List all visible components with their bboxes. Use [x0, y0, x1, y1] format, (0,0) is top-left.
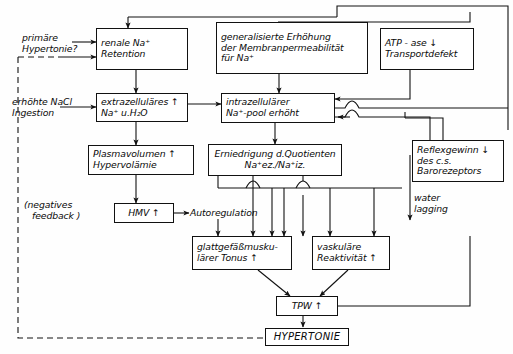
- flow-diagram: renale Na⁺ Retention generalisierte Erhö…: [0, 0, 513, 354]
- right-line-hop-b: [335, 110, 430, 140]
- node-generalisierte-erhoehung[interactable]: generalisierte Erhöhung der Membranperme…: [216, 22, 368, 74]
- label-autoregulation: Autoregulation: [190, 207, 258, 218]
- node-line: Na⁺ u.H₂O: [101, 108, 183, 119]
- right-line-hop-a: [335, 101, 508, 108]
- node-renale-na-retention[interactable]: renale Na⁺ Retention: [96, 28, 188, 70]
- arrow-glatt-tpw: [258, 270, 290, 296]
- label-line: primäre: [22, 32, 77, 43]
- node-glattgefaessmuskulaerer-tonus[interactable]: glattgefäßmusku- lärer Tonus ↑: [192, 236, 292, 270]
- label-line: lagging: [414, 203, 448, 214]
- node-erniedrigung-quotient[interactable]: Erniedrigung d.Quotienten Na⁺ez./Na⁺iz.: [208, 144, 342, 176]
- label-primaere-hypertonie: primäre Hypertonie?: [22, 32, 77, 54]
- node-hypertonie[interactable]: HYPERTONIE: [265, 328, 349, 346]
- label-line: water: [414, 192, 448, 203]
- wire-hop-2: [296, 181, 310, 188]
- node-line: TPW ↑: [292, 301, 323, 312]
- arrow-vask-tpw: [320, 270, 348, 296]
- label-water-lagging: water lagging: [414, 192, 448, 214]
- node-vaskulaere-reaktivitaet[interactable]: vaskuläre Reaktivität ↑: [312, 236, 390, 270]
- node-line: Barorezeptors: [417, 166, 499, 177]
- label-line: Autoregulation: [190, 207, 258, 218]
- node-reflexgewinn-barorezeptors[interactable]: Reflexgewinn ↓ des c.s. Barorezeptors: [412, 140, 504, 182]
- arrow-atpase-intra: [335, 70, 410, 99]
- node-line: Retention: [101, 49, 183, 60]
- label-line: (negatives: [24, 199, 80, 210]
- node-line: für Na⁺: [221, 53, 363, 64]
- node-line: lärer Tonus ↑: [197, 253, 287, 264]
- node-tpw[interactable]: TPW ↑: [276, 296, 338, 316]
- label-erhoehte-nacl-ingestion: erhöhte NaCl Ingestion: [12, 96, 72, 118]
- label-line: erhöhte NaCl: [12, 96, 72, 107]
- node-line: Reaktivität ↑: [317, 253, 385, 264]
- node-extrazellulaeres-na-h2o[interactable]: extrazelluläres ↑ Na⁺ u.H₂O: [96, 93, 188, 122]
- node-atpase-transportdefekt[interactable]: ATP - ase ↓ Transportdefekt: [380, 28, 474, 70]
- node-line: HYPERTONIE: [274, 332, 341, 343]
- node-line: Na⁺-pool erhöht: [226, 108, 330, 119]
- label-line: Ingestion: [12, 107, 72, 118]
- node-line: Na⁺ez./Na⁺iz.: [245, 160, 306, 171]
- label-negatives-feedback: (negatives feedback ): [24, 199, 80, 221]
- label-line: Hypertonie?: [22, 43, 77, 54]
- node-line: Transportdefekt: [385, 49, 469, 60]
- node-plasmavolumen-hypervolaemie[interactable]: Plasmavolumen ↑ Hypervolämie: [88, 145, 194, 175]
- node-intrazellulaerer-na-pool[interactable]: intrazellulärer Na⁺-pool erhöht: [221, 93, 335, 123]
- node-line: HMV ↑: [128, 208, 160, 219]
- node-line: extrazelluläres ↑: [101, 97, 183, 108]
- node-hmv[interactable]: HMV ↑: [114, 203, 174, 223]
- reflex-top-in: [405, 118, 443, 140]
- node-line: Hypervolämie: [93, 160, 189, 171]
- label-line: feedback ): [24, 210, 80, 221]
